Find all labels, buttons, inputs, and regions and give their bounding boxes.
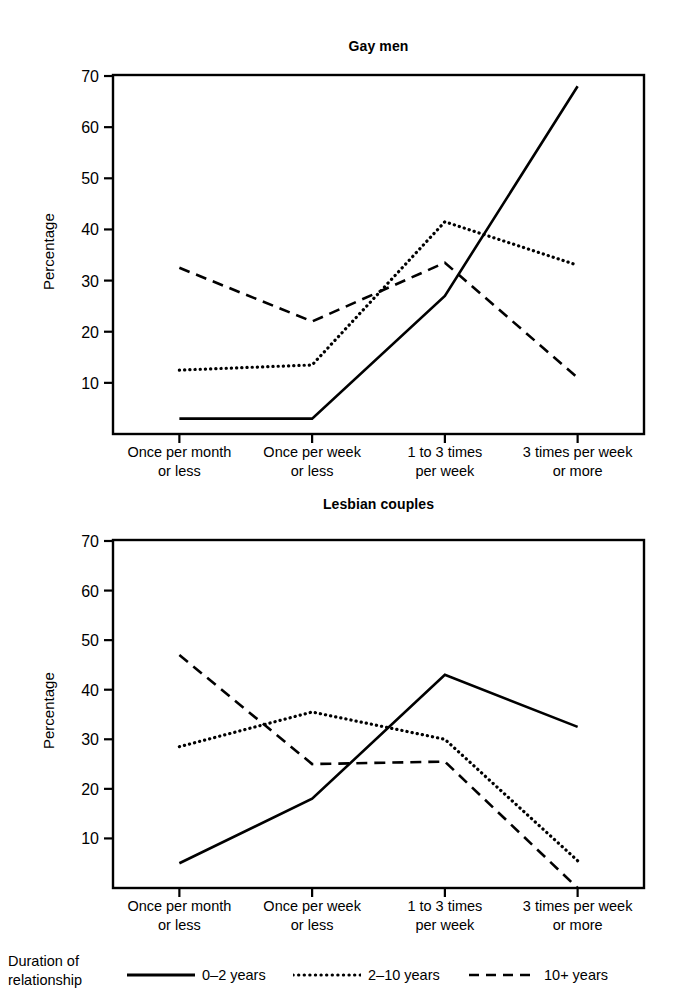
legend-entry-0-2-years: 0–2 years	[127, 964, 266, 986]
y-axis-tick-label: 40	[81, 221, 99, 238]
legend-label: 10+ years	[544, 967, 608, 983]
legend-swatch-solid-icon	[127, 970, 195, 980]
x-axis-tick-label-line-2: or more	[498, 916, 658, 935]
y-axis-tick-label: 60	[81, 119, 99, 136]
legend-entry-2-10-years: 2–10 years	[293, 964, 440, 986]
y-axis-tick-label: 50	[81, 632, 99, 649]
legend-label: 2–10 years	[368, 967, 440, 983]
series-line-dotted	[179, 712, 577, 861]
y-axis-tick-label: 20	[81, 324, 99, 341]
x-axis-tick-label: 3 times per weekor more	[498, 897, 658, 935]
legend-entry-10-plus-years: 10+ years	[469, 964, 608, 986]
x-axis-tick-labels: Once per monthor lessOnce per weekor les…	[0, 897, 683, 941]
series-line-dashed	[179, 263, 577, 378]
legend-title: Duration of relationship	[8, 952, 82, 990]
x-axis-tick-label: 3 times per weekor more	[498, 443, 658, 481]
x-axis-tick-labels: Once per monthor lessOnce per weekor les…	[0, 443, 683, 487]
plot-area-gay-men: 10203040506070	[0, 0, 683, 490]
y-axis-tick-label: 50	[81, 170, 99, 187]
y-axis-tick-label: 70	[81, 68, 99, 85]
legend-title-line-2: relationship	[8, 971, 82, 990]
y-axis-tick-label: 10	[81, 375, 99, 392]
legend-label: 0–2 years	[202, 967, 266, 983]
series-line-dashed	[179, 655, 577, 888]
y-axis-tick-label: 60	[81, 583, 99, 600]
series-line-dotted	[179, 222, 577, 370]
x-axis-tick-label-line-1: 3 times per week	[498, 897, 658, 916]
y-axis-tick-label: 20	[81, 781, 99, 798]
y-axis-tick-label: 30	[81, 273, 99, 290]
x-axis-tick-label-line-2: or more	[498, 462, 658, 481]
legend: Duration of relationship 0–2 years 2–10 …	[0, 952, 683, 1006]
legend-title-line-1: Duration of	[8, 952, 82, 971]
figure-root: Gay men Percentage 10203040506070 Once p…	[0, 0, 683, 1006]
y-axis-tick-label: 10	[81, 830, 99, 847]
y-axis-tick-label: 30	[81, 731, 99, 748]
chart-panel-gay-men: Gay men Percentage 10203040506070 Once p…	[0, 0, 683, 490]
y-axis-tick-label: 70	[81, 533, 99, 550]
legend-swatch-dashed-icon	[469, 970, 537, 980]
chart-panel-lesbian-couples: Lesbian couples Percentage 1020304050607…	[0, 494, 683, 952]
x-axis-tick-label-line-1: 3 times per week	[498, 443, 658, 462]
plot-area-lesbian-couples: 10203040506070	[0, 494, 683, 952]
legend-swatch-dotted-icon	[293, 970, 361, 980]
series-line-solid	[179, 86, 577, 418]
y-axis-tick-label: 40	[81, 682, 99, 699]
